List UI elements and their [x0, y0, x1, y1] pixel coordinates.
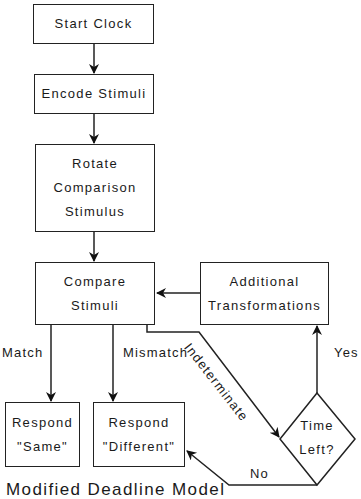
node-label-line-2: Transformations	[208, 294, 321, 318]
node-label-line-1: Respond	[12, 411, 73, 435]
node-label-line-1: Additional	[229, 270, 299, 294]
node-compare-stimuli: Compare Stimuli	[35, 262, 155, 325]
node-label-line-2: Comparison	[53, 176, 136, 200]
edge-label-no: No	[250, 466, 269, 481]
node-label: Encode Stimuli	[42, 82, 147, 106]
node-label-line-1: Compare	[64, 270, 127, 294]
node-respond-different: Respond "Different"	[93, 402, 185, 467]
node-start-clock: Start Clock	[33, 4, 154, 44]
decision-label-line-2: Left?	[287, 438, 347, 462]
node-label-line-2: "Different"	[103, 435, 175, 459]
edge-label-mismatch: Mismatch	[123, 345, 188, 360]
node-label: Start Clock	[55, 12, 133, 36]
decision-label-line-1: Time	[287, 414, 347, 438]
node-label-line-1: Respond	[108, 411, 169, 435]
edge-label-yes: Yes	[334, 345, 359, 360]
node-respond-same: Respond "Same"	[5, 402, 80, 467]
diagram-caption: Modified Deadline Model	[6, 480, 225, 499]
node-encode-stimuli: Encode Stimuli	[34, 74, 154, 114]
node-label-line-3: Stimulus	[65, 200, 125, 224]
decision-label-time-left: Time Left?	[287, 414, 347, 462]
node-label-line-2: "Same"	[17, 435, 68, 459]
node-label-line-1: Rotate	[72, 152, 118, 176]
node-rotate-comparison-stimulus: Rotate Comparison Stimulus	[35, 144, 155, 232]
node-additional-transformations: Additional Transformations	[200, 262, 329, 325]
node-label-line-2: Stimuli	[71, 294, 119, 318]
edge-label-match: Match	[2, 345, 43, 360]
